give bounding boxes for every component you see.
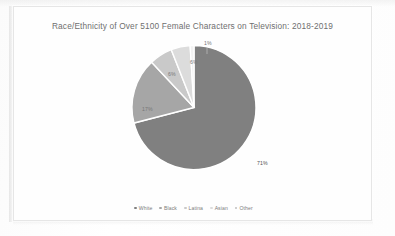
legend-swatch-latina-icon (184, 207, 187, 210)
data-label-latina: 6% (168, 71, 176, 77)
legend-swatch-other-icon (235, 207, 238, 210)
legend-label-black: Black (164, 205, 177, 211)
legend-swatch-asian-icon (210, 207, 213, 210)
legend-item-latina[interactable]: Latina (184, 205, 203, 211)
legend-item-other[interactable]: Other (235, 205, 253, 211)
legend-label-other: Other (239, 205, 252, 211)
data-label-white: 71% (257, 160, 268, 166)
data-label-other: 1% (204, 40, 212, 46)
data-label-black: 17% (142, 106, 153, 112)
pie-chart-svg (59, 35, 329, 180)
scanned-page: Race/Ethnicity of Over 5100 Female Chara… (0, 0, 395, 236)
chart-legend: White Black Latina Asian Other (14, 205, 373, 211)
legend-label-asian: Asian (215, 205, 228, 211)
legend-swatch-white-icon (134, 207, 137, 210)
legend-swatch-black-icon (159, 207, 162, 210)
legend-item-asian[interactable]: Asian (210, 205, 228, 211)
legend-label-white: White (139, 205, 153, 211)
legend-label-latina: Latina (189, 205, 203, 211)
data-label-asian: 6% (190, 59, 198, 65)
pie-plot-area: 71% 17% 6% 6% 1% (14, 7, 373, 222)
chart-frame[interactable]: Race/Ethnicity of Over 5100 Female Chara… (13, 6, 372, 221)
legend-item-white[interactable]: White (134, 205, 152, 211)
legend-item-black[interactable]: Black (159, 205, 177, 211)
